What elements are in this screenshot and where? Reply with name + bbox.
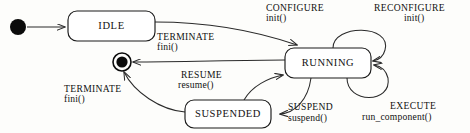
state-running[interactable]: RUNNING	[285, 48, 371, 78]
state-machine-diagram: IDLE RUNNING SUSPENDED CONFIGURE init() …	[0, 0, 470, 133]
label-running-to-suspended-action: suspend()	[288, 112, 327, 124]
label-running-to-suspended: SUSPEND suspend()	[288, 101, 333, 124]
state-running-label: RUNNING	[302, 57, 355, 68]
label-running-to-final-action: fini()	[157, 41, 178, 53]
final-state-node	[116, 56, 127, 67]
state-idle-label: IDLE	[98, 20, 124, 31]
label-idle-to-running: CONFIGURE init()	[266, 2, 324, 24]
label-running-self-execute-event: EXECUTE	[390, 100, 436, 111]
label-running-to-suspended-event: SUSPEND	[288, 101, 333, 112]
label-running-self-reconfigure-action: init()	[404, 12, 424, 24]
label-suspended-to-running-action: resume()	[178, 79, 214, 91]
state-suspended-label: SUSPENDED	[195, 108, 261, 119]
label-suspended-to-final-action: fini()	[64, 93, 85, 105]
label-running-self-execute: EXECUTE run_component()	[362, 100, 436, 123]
transition-suspended-to-final	[124, 72, 185, 112]
label-running-self-reconfigure: RECONFIGURE init()	[374, 2, 445, 24]
diagram-canvas: IDLE RUNNING SUSPENDED CONFIGURE init() …	[0, 0, 470, 133]
label-running-self-execute-action: run_component()	[362, 111, 432, 123]
label-running-to-final: TERMINATE fini()	[157, 31, 215, 53]
label-suspended-to-final: TERMINATE fini()	[64, 83, 122, 105]
label-idle-to-running-action: init()	[266, 12, 286, 24]
state-idle[interactable]: IDLE	[68, 11, 155, 41]
initial-state-node	[10, 19, 26, 35]
label-suspended-to-running: RESUME resume()	[178, 69, 222, 91]
transition-suspended-to-running	[244, 75, 283, 100]
transition-running-to-final	[133, 60, 285, 62]
state-suspended[interactable]: SUSPENDED	[185, 100, 271, 128]
